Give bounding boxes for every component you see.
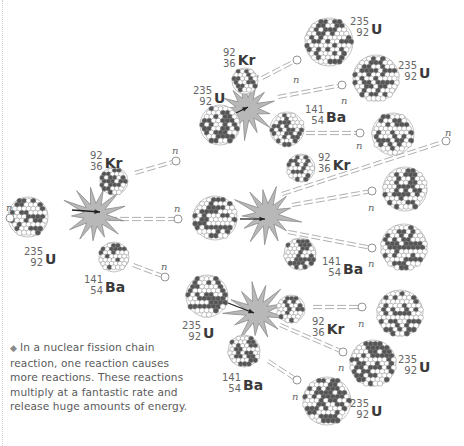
neutron-icon	[6, 214, 14, 222]
mass-atomic-numbers: 9236	[318, 152, 331, 174]
neutron-icon	[442, 137, 450, 145]
element-symbol: Ba	[326, 110, 346, 124]
neutron-label: n	[358, 318, 364, 329]
neutron-icon	[358, 303, 366, 311]
neutron-label: n	[368, 202, 374, 213]
fission-chain-diagram: 23592U9236Kr14154Ba23592U23592U9236Kr141…	[0, 0, 464, 446]
neutron-icon	[161, 273, 169, 281]
neutron-label: n	[445, 127, 451, 138]
neutron-icon	[338, 81, 346, 89]
mass-atomic-numbers: 9236	[90, 150, 103, 172]
starburst-icon	[64, 187, 125, 240]
mass-atomic-numbers: 23592	[182, 320, 201, 342]
element-symbol: Ba	[105, 280, 125, 294]
nucleus-ba-bot	[228, 335, 260, 367]
neutron-icon	[172, 157, 180, 165]
isotope-label-ba: 14154Ba	[84, 274, 125, 296]
isotope-label-u: 23592U	[398, 354, 430, 376]
element-symbol: Ba	[343, 262, 363, 276]
nucleus-u-gen3-6	[377, 290, 424, 336]
nucleus-kr-mid	[287, 154, 315, 182]
mass-atomic-numbers: 23592	[398, 60, 417, 82]
nucleus-u-gen2-bot	[186, 275, 228, 317]
neutron-label: n	[293, 74, 299, 85]
nucleus-u-gen3-4	[383, 167, 427, 211]
element-symbol: Ba	[243, 378, 263, 392]
mass-atomic-numbers: 23592	[398, 354, 417, 376]
mass-atomic-numbers: 14154	[305, 104, 324, 126]
element-symbol: U	[419, 360, 430, 374]
nucleus-u-gen3-7	[350, 340, 397, 386]
neutron-trail	[132, 264, 161, 278]
neutron-icon	[293, 376, 301, 384]
isotope-label-u: 23592U	[350, 16, 382, 38]
nucleus-u-gen2-top	[200, 105, 240, 145]
neutron-icon	[174, 215, 182, 223]
nucleus-u-gen3-8	[303, 377, 352, 425]
isotope-label-ba: 14154Ba	[305, 104, 346, 126]
mass-atomic-numbers: 14154	[84, 274, 103, 296]
mass-atomic-numbers: 14154	[222, 372, 241, 394]
isotope-label-u: 23592U	[24, 246, 56, 268]
nucleus-kr-bot	[277, 295, 305, 323]
element-symbol: U	[419, 66, 430, 80]
element-symbol: U	[371, 404, 382, 418]
neutron-label: n	[292, 391, 298, 402]
starburst-icon	[235, 187, 302, 245]
nucleus-ba-top	[270, 112, 304, 147]
nucleus-ba-gen1	[99, 242, 129, 272]
nucleus-u-gen2-mid	[193, 196, 237, 240]
neutron-icon	[356, 129, 364, 137]
mass-atomic-numbers: 23592	[350, 16, 369, 38]
neutron-icon	[368, 187, 376, 195]
isotope-label-kr: 9236Kr	[312, 316, 345, 338]
isotope-label-u: 23592U	[398, 60, 430, 82]
isotope-label-ba: 14154Ba	[322, 256, 363, 278]
neutron-label: n	[161, 261, 167, 272]
neutron-trail	[261, 60, 294, 79]
neutron-trail	[292, 190, 369, 206]
neutron-icon	[293, 56, 301, 64]
element-symbol: U	[371, 22, 382, 36]
nucleus-kr-top	[232, 68, 258, 94]
nucleus-u-gen3-5	[381, 224, 428, 270]
neutron-trail	[278, 84, 339, 98]
isotope-label-kr: 9236Kr	[318, 152, 351, 174]
element-symbol: Kr	[105, 156, 123, 170]
isotope-label-u: 23592U	[182, 320, 214, 342]
isotope-label-u: 23592U	[193, 85, 225, 107]
neutron-trail	[135, 161, 173, 175]
element-symbol: U	[45, 252, 56, 266]
isotope-label-u: 23592U	[350, 398, 382, 420]
neutron-label: n	[338, 362, 344, 373]
neutron-trail	[313, 305, 358, 308]
isotope-label-kr: 9236Kr	[90, 150, 123, 172]
caption: ◆In a nuclear fission chain reaction, on…	[10, 340, 195, 414]
mass-atomic-numbers: 9236	[312, 316, 325, 338]
neutron-label: n	[368, 258, 374, 269]
nucleus-u-gen3-1	[305, 18, 354, 66]
neutron-icon	[368, 244, 376, 252]
mass-atomic-numbers: 23592	[24, 246, 43, 268]
isotope-label-kr: 9236Kr	[223, 47, 256, 69]
mass-atomic-numbers: 23592	[193, 85, 212, 107]
neutron-label: n	[174, 203, 180, 214]
neutron-label: n	[6, 202, 12, 213]
neutron-label: n	[172, 145, 178, 156]
element-symbol: Kr	[327, 322, 345, 336]
element-symbol: Kr	[333, 158, 351, 172]
isotope-label-ba: 14154Ba	[222, 372, 263, 394]
element-symbol: Kr	[238, 53, 256, 67]
neutron-label: n	[341, 95, 347, 106]
neutron-trail	[306, 131, 356, 134]
nucleus-u-gen3-3	[372, 113, 414, 155]
mass-atomic-numbers: 14154	[322, 256, 341, 278]
mass-atomic-numbers: 23592	[350, 398, 369, 420]
element-symbol: U	[214, 91, 225, 105]
nucleus-u-gen3-2	[353, 55, 400, 101]
mass-atomic-numbers: 9236	[223, 47, 236, 69]
neutron-label: n	[356, 140, 362, 151]
diamond-bullet-icon: ◆	[10, 343, 17, 353]
neutron-trail	[267, 360, 294, 379]
element-symbol: U	[203, 326, 214, 340]
